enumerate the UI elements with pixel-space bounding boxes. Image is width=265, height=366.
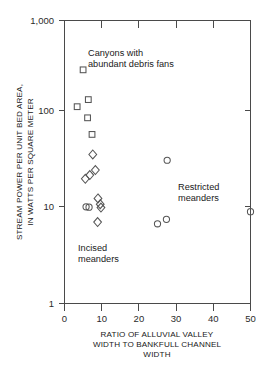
annotation-incised: Incised meanders	[78, 243, 119, 264]
data-point-square-3	[85, 115, 91, 121]
x-tick-label-30: 30	[171, 313, 182, 324]
restricted-label-line2: meanders	[178, 193, 219, 203]
data-point-square-2	[85, 97, 91, 103]
x-axis-ticks	[65, 304, 251, 311]
data-point-diamond-0	[89, 150, 97, 159]
incised-label-line2: meanders	[78, 254, 119, 264]
y-tick-label-1000: 1,000	[30, 15, 54, 26]
x-axis-ticks-top	[102, 21, 214, 28]
y-tick-label-10: 10	[43, 201, 54, 212]
y-tick-label-100: 100	[38, 105, 54, 116]
canyons-label-line1: Canyons with	[88, 48, 143, 58]
x-tick-label-40: 40	[208, 313, 219, 324]
x-tick-labels: 0 10 20 30 40 50	[62, 313, 256, 324]
x-axis-title-line2: WIDTH TO BANKFULL CHANNEL	[93, 340, 222, 349]
data-point-square-0	[80, 67, 86, 73]
canyons-label-line2: abundant debris fans	[88, 59, 174, 69]
y-axis-title-line1: STREAM POWER PER UNIT BED AREA,	[15, 84, 24, 240]
y-axis-title: STREAM POWER PER UNIT BED AREA, IN WATTS…	[15, 84, 35, 240]
data-point-circle-3	[154, 221, 160, 227]
y-tick-label-1: 1	[49, 298, 54, 309]
restricted-label-line1: Restricted	[178, 182, 219, 192]
chart-figure: 1,000 100 10 1 0 10 20 30 40	[0, 0, 265, 366]
y-axis-ticks	[59, 21, 65, 304]
annotation-restricted: Restricted meanders	[178, 182, 219, 203]
x-axis-title-line1: RATIO OF ALLUVIAL VALLEY	[101, 330, 214, 339]
scatter-plot-svg: 1,000 100 10 1 0 10 20 30 40	[0, 0, 265, 366]
data-point-circle-4	[163, 216, 169, 222]
x-tick-label-20: 20	[134, 313, 145, 324]
data-point-circle-2	[164, 157, 170, 163]
x-axis-title: RATIO OF ALLUVIAL VALLEY WIDTH TO BANKFU…	[93, 330, 222, 359]
x-tick-label-10: 10	[96, 313, 107, 324]
annotation-canyons: Canyons with abundant debris fans	[88, 48, 174, 69]
data-markers-layer	[74, 67, 253, 227]
x-tick-label-50: 50	[245, 313, 256, 324]
incised-label-line1: Incised	[78, 243, 107, 253]
y-axis-ticks-right	[245, 111, 251, 207]
data-point-square-4	[89, 132, 95, 138]
y-axis-title-line2: IN WATTS PER SQUARE METER	[26, 98, 35, 225]
x-tick-label-0: 0	[62, 313, 67, 324]
x-axis-title-line3: WIDTH	[143, 350, 170, 359]
series-diamond	[81, 150, 104, 227]
data-point-diamond-7	[94, 218, 102, 227]
series-square	[74, 67, 95, 137]
series-circle	[83, 157, 254, 227]
data-point-square-1	[74, 104, 80, 110]
data-point-diamond-3	[81, 174, 89, 183]
